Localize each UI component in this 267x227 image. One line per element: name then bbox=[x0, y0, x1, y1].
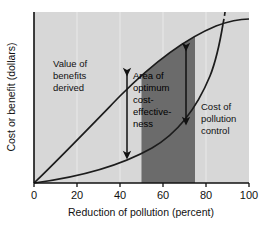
cost-label-line-1: Cost of bbox=[201, 101, 231, 112]
benefits-label-line-1: Value of bbox=[53, 58, 88, 69]
x-tick-label-0: 0 bbox=[31, 189, 37, 201]
annotation-value-of-benefits: Value of benefits derived bbox=[53, 58, 88, 93]
x-tick-label-100: 100 bbox=[240, 189, 258, 201]
x-tick-label-80: 80 bbox=[200, 189, 212, 201]
optimum-label-line-5: ness bbox=[133, 118, 153, 129]
x-tick-label-60: 60 bbox=[157, 189, 169, 201]
x-tick-label-20: 20 bbox=[71, 189, 83, 201]
chart-svg: 0 20 40 60 80 100 Reduction of pollution… bbox=[0, 0, 267, 227]
optimum-label-line-2: optimum bbox=[133, 82, 170, 93]
optimum-label-line-4: effective- bbox=[133, 106, 171, 117]
x-tick-label-40: 40 bbox=[114, 189, 126, 201]
benefits-label-line-2: benefits bbox=[53, 70, 87, 81]
benefits-label-line-3: derived bbox=[53, 82, 84, 93]
optimum-label-line-3: cost- bbox=[133, 94, 154, 105]
cost-label-line-2: pollution bbox=[201, 113, 236, 124]
chart-figure: 0 20 40 60 80 100 Reduction of pollution… bbox=[0, 0, 267, 227]
x-axis-title: Reduction of pollution (percent) bbox=[68, 206, 214, 218]
y-axis-title: Cost or benefit (dollars) bbox=[5, 42, 17, 151]
cost-label-line-3: control bbox=[201, 125, 230, 136]
optimum-label-line-1: Area of bbox=[133, 70, 164, 81]
